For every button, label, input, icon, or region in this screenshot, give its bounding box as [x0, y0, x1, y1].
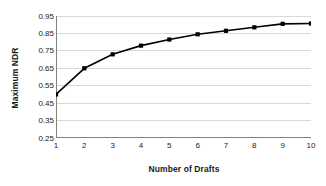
x-tick-label: 3 [104, 141, 122, 151]
y-tick-label: 0.55 [30, 81, 54, 90]
series-line [56, 23, 311, 94]
data-point-marker [309, 21, 311, 25]
x-tick-label: 10 [302, 141, 320, 151]
y-tick-label: 0.45 [30, 99, 54, 108]
x-tick-label: 6 [189, 141, 207, 151]
y-tick-label: 0.85 [30, 29, 54, 38]
axis-lines [56, 16, 311, 138]
data-point-marker [196, 32, 200, 36]
x-axis-tick-labels: 12345678910 [56, 141, 312, 153]
data-point-marker [82, 66, 86, 70]
y-tick-label: 0.95 [30, 12, 54, 21]
x-tick-label: 1 [47, 141, 65, 151]
x-tick-label: 4 [132, 141, 150, 151]
x-tick-label: 2 [75, 141, 93, 151]
data-point-marker [224, 29, 228, 33]
x-tick-label: 5 [160, 141, 178, 151]
y-axis-tick-labels: 0.950.850.750.650.550.450.350.25 [28, 0, 54, 186]
data-point-marker [167, 37, 171, 41]
gridlines [56, 16, 311, 138]
line-chart-svg [56, 16, 311, 138]
data-point-marker [139, 44, 143, 48]
data-point-marker [252, 25, 256, 29]
data-point-marker [111, 52, 115, 56]
x-axis-title: Number of Drafts [56, 164, 312, 174]
plot-area [56, 16, 311, 138]
y-tick-label: 0.65 [30, 64, 54, 73]
y-axis-title: Maximum NDR [8, 8, 22, 148]
x-tick-label: 7 [217, 141, 235, 151]
data-point-marker [56, 92, 58, 96]
y-tick-label: 0.35 [30, 116, 54, 125]
y-tick-label: 0.75 [30, 46, 54, 55]
chart-figure: Maximum NDR 0.950.850.750.650.550.450.35… [0, 0, 326, 186]
x-tick-label: 9 [274, 141, 292, 151]
x-tick-label: 8 [245, 141, 263, 151]
data-point-marker [281, 22, 285, 26]
